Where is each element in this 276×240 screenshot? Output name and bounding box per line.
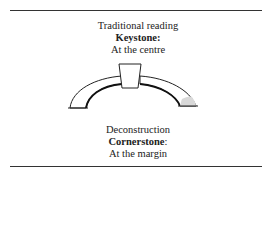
bottom-rule xyxy=(10,166,262,167)
cornerstone-description: At the margin xyxy=(0,148,276,160)
keystone-icon xyxy=(119,64,141,88)
cornerstone-word: Cornerstone xyxy=(109,136,165,147)
cornerstone-label: Cornerstone: xyxy=(0,136,276,148)
cornerstone-colon: : xyxy=(165,136,168,147)
bottom-caption-title: Deconstruction xyxy=(0,124,276,136)
